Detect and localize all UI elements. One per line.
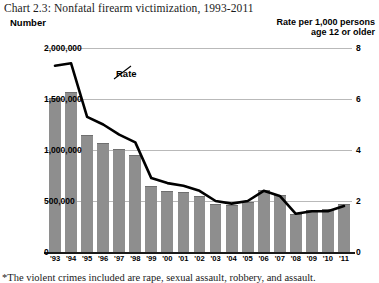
x-axis-tick-label: '09 (304, 254, 320, 263)
bar (81, 135, 93, 252)
x-axis-tick-label: '01 (175, 254, 191, 263)
left-axis-title: Number (10, 17, 46, 28)
x-axis-tick-label: '04 (224, 254, 240, 263)
x-axis-tick-label: '08 (288, 254, 304, 263)
x-axis-tick-label: '93 (47, 254, 63, 263)
y-axis-tick-text: 500,000 (44, 196, 75, 206)
bar (129, 155, 141, 252)
y-axis-tick-text: 2,000,000 (44, 43, 82, 53)
x-axis-tick-label: '10 (320, 254, 336, 263)
bar (145, 186, 157, 252)
y2-axis-tick-text: 4 (356, 145, 361, 155)
x-axis-tick-label: '00 (159, 254, 175, 263)
x-axis-tick-label: '98 (127, 254, 143, 263)
y-axis-tick-text: 1,000,000 (44, 145, 82, 155)
right-axis-title-line1: Rate per 1,000 persons (276, 17, 375, 27)
y2-axis-tick-text: 8 (356, 43, 361, 53)
bar (113, 149, 125, 252)
x-axis-tick-label: '11 (336, 254, 352, 263)
bar (306, 210, 318, 252)
right-axis-title: Rate per 1,000 persons age 12 or older (276, 17, 375, 37)
x-axis-tick-label: '06 (256, 254, 272, 263)
y-axis-tick-text: 1,500,000 (44, 94, 82, 104)
y2-axis-tick-text: 6 (356, 94, 361, 104)
bar (49, 98, 61, 252)
bar (178, 192, 190, 252)
x-axis-tick-label: '94 (63, 254, 79, 263)
x-axis-tick-label: '03 (208, 254, 224, 263)
x-axis-tick-label: '02 (191, 254, 207, 263)
bar (322, 209, 334, 252)
x-axis-tick-label: '99 (143, 254, 159, 263)
rate-series-label: Rate (116, 68, 137, 79)
y2-axis-tick-text: 0 (356, 247, 361, 257)
bar (194, 196, 206, 252)
bar (97, 143, 109, 252)
bar (210, 204, 222, 252)
x-axis-tick-label: '07 (272, 254, 288, 263)
gridline (47, 48, 352, 49)
bar (161, 191, 173, 252)
bar (274, 195, 286, 252)
bar (226, 205, 238, 252)
bar (258, 190, 270, 252)
gridline (47, 99, 352, 100)
page-title: Chart 2.3: Nonfatal firearm victimizatio… (4, 2, 254, 14)
chart-root: Chart 2.3: Nonfatal firearm victimizatio… (0, 0, 379, 283)
x-axis-tick-label: '05 (240, 254, 256, 263)
y2-axis-tick-text: 2 (356, 196, 361, 206)
x-axis-tick-label: '96 (95, 254, 111, 263)
bar (290, 214, 302, 252)
bar (338, 204, 350, 252)
x-axis-tick-label: '95 (79, 254, 95, 263)
x-axis-tick-label: '97 (111, 254, 127, 263)
bar (65, 92, 77, 252)
footnote: *The violent crimes included are rape, s… (2, 272, 379, 283)
bar (242, 202, 254, 252)
right-axis-title-line2: age 12 or older (276, 27, 375, 37)
plot-area (47, 48, 352, 252)
